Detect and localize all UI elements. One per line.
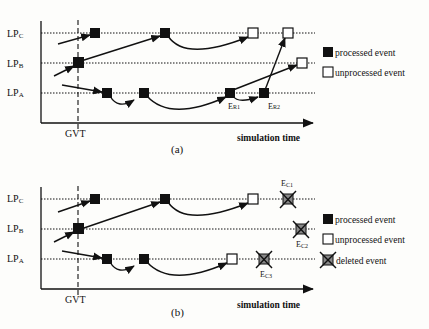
legend-deleted-label: deleted event: [336, 256, 387, 266]
processed-event: [102, 88, 112, 98]
annotation-ec1: EC1: [281, 179, 293, 188]
legend: processed event unprocessed event delete…: [320, 214, 405, 268]
message-arrows: [54, 35, 297, 109]
annotation-er1: ER1: [228, 102, 240, 111]
unprocessed-event: [248, 194, 258, 204]
lane-label-lpc: LPC: [7, 193, 24, 205]
annotation-ec2: EC2: [296, 240, 308, 249]
unprocessed-events: [248, 28, 307, 68]
legend: processed event unprocessed event: [323, 47, 405, 78]
unprocessed-event: [248, 28, 258, 38]
processed-event: [139, 254, 149, 264]
panel-b: LPC LPB LPA GVT: [7, 179, 405, 319]
diagram-canvas: LPC LPB LPA GVT: [0, 0, 429, 329]
unprocessed-event: [227, 254, 237, 264]
processed-event-er1: [225, 88, 235, 98]
annotation-ec3: EC3: [260, 270, 272, 279]
legend-unprocessed-label: unprocessed event: [335, 235, 405, 245]
legend-processed-label: processed event: [335, 215, 396, 225]
processed-event: [73, 57, 84, 68]
lane-label-lpb: LPB: [7, 223, 24, 235]
lane-label-lpc: LPC: [7, 28, 24, 40]
deleted-event-ec2: [293, 221, 309, 238]
lane-label-lpb: LPB: [7, 58, 24, 70]
panel-caption: (a): [171, 143, 184, 156]
processed-event: [139, 88, 149, 98]
legend-unprocessed-swatch: [323, 234, 333, 244]
unprocessed-event: [297, 58, 307, 68]
processed-event: [160, 194, 170, 204]
processed-event-er2: [259, 88, 269, 98]
legend-processed-label: processed event: [335, 48, 396, 58]
processed-event: [73, 223, 84, 234]
lane-label-lpa: LPA: [7, 87, 24, 99]
annotation-er2: ER2: [268, 102, 280, 111]
gvt-label: GVT: [65, 294, 86, 305]
legend-unprocessed-swatch: [323, 67, 333, 77]
message-arrows: [54, 201, 248, 275]
legend-processed-swatch: [323, 214, 333, 224]
unprocessed-event: [283, 28, 293, 38]
legend-processed-swatch: [323, 47, 333, 57]
legend-unprocessed-label: unprocessed event: [335, 68, 405, 78]
processed-event: [90, 194, 100, 204]
x-axis-label: simulation time: [237, 300, 300, 310]
lane-label-lpa: LPA: [7, 253, 24, 265]
processed-event: [160, 28, 170, 38]
panel-a: LPC LPB LPA GVT: [7, 20, 405, 156]
x-axis-label: simulation time: [237, 133, 300, 143]
processed-event: [102, 254, 112, 264]
panel-caption: (b): [171, 306, 184, 319]
gvt-label: GVT: [65, 128, 86, 139]
legend-deleted-swatch: [320, 252, 336, 268]
processed-event: [90, 28, 100, 38]
